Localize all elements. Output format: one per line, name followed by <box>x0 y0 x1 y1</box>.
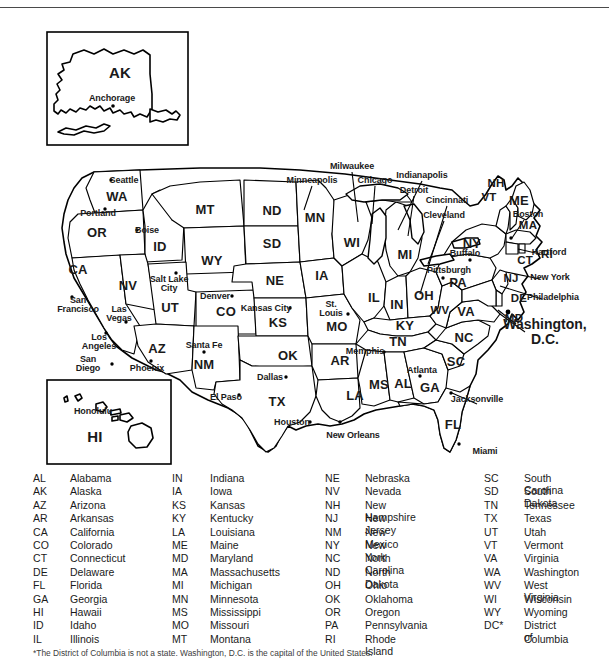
footnote-text: *The District of Columbia is not a state… <box>33 648 373 658</box>
legend-abbr: WV <box>484 579 501 591</box>
legend-state-name: Pennsylvania <box>365 619 427 631</box>
legend-state-name: Connecticut <box>70 552 125 564</box>
legend-abbr: CT <box>33 552 47 564</box>
legend-state-name: Utah <box>524 526 546 538</box>
legend-state-name: Michigan <box>210 579 252 591</box>
legend-abbr: IN <box>172 472 183 484</box>
legend-abbr: DE <box>33 566 48 578</box>
legend-abbr: MT <box>172 633 187 645</box>
legend-state-name: Kentucky <box>210 512 253 524</box>
los-angeles-city-dot <box>104 331 107 334</box>
santa-fe-city-dot <box>202 350 205 353</box>
legend-state-name: Virginia <box>524 552 559 564</box>
legend-abbr: KS <box>172 499 186 511</box>
legend-state-name: Nebraska <box>365 472 410 484</box>
san-francisco-city-dot <box>70 295 73 298</box>
legend-abbr: WI <box>484 593 497 605</box>
legend-abbr: OR <box>325 606 341 618</box>
el-paso-city-dot <box>237 393 240 396</box>
buffalo-city-dot <box>468 258 471 261</box>
legend-abbr: VA <box>484 552 497 564</box>
legend-abbr: FL <box>33 579 45 591</box>
las-vegas-city-dot <box>124 320 127 323</box>
legend-abbr: ID <box>33 619 44 631</box>
legend-abbr: KY <box>172 512 186 524</box>
dallas-city-dot <box>284 375 287 378</box>
kansas-city-city-dot <box>288 306 291 309</box>
legend-state-name: Missouri <box>210 619 249 631</box>
us-map-page: AK Anchorage HI Honolulu WAORCANVIDMTWYU… <box>0 0 609 661</box>
portland-city-dot <box>103 207 106 210</box>
hawaii-molokai <box>110 409 121 415</box>
legend-abbr: NY <box>325 539 340 551</box>
alaska-inset-group <box>47 32 188 145</box>
state-oregon <box>68 210 145 258</box>
legend-abbr: MO <box>172 619 189 631</box>
legend-abbr: CA <box>33 526 48 538</box>
state-south-dakota <box>244 226 300 264</box>
state-abbreviation-legend: ALAlabamaAKAlaskaAZArizonaARArkansasCACa… <box>0 472 609 642</box>
legend-state-name: Hawaii <box>70 606 102 618</box>
houston-city-dot <box>308 420 311 423</box>
state-oklahoma <box>238 336 312 368</box>
miami-city-dot <box>457 442 460 445</box>
alaska-panhandle <box>150 109 180 122</box>
salt-lake-city-city-dot <box>174 271 177 274</box>
hawaii-niihau <box>64 396 68 402</box>
legend-state-name: Montana <box>210 633 251 645</box>
legend-abbr: HI <box>33 606 44 618</box>
legend-state-name: Alaska <box>70 485 102 497</box>
legend-abbr: PA <box>325 619 338 631</box>
legend-abbr: IA <box>172 485 182 497</box>
legend-abbr: MS <box>172 606 188 618</box>
legend-state-name: Massachusetts <box>210 566 280 578</box>
legend-state-name: Maine <box>210 539 239 551</box>
boston-city-dot <box>509 236 512 239</box>
legend-state-name: Oregon <box>365 606 400 618</box>
san-diego-city-dot <box>110 362 113 365</box>
hawaii-inset-box <box>47 380 171 464</box>
legend-abbr: AK <box>33 485 47 497</box>
top-divider <box>0 7 609 8</box>
map-stage: AK Anchorage HI Honolulu WAORCANVIDMTWYU… <box>0 14 609 469</box>
legend-abbr: GA <box>33 593 48 605</box>
denver-city-dot <box>230 294 233 297</box>
state-washington <box>86 170 143 213</box>
jacksonville-city-dot <box>449 391 452 394</box>
legend-state-name: California <box>70 526 114 538</box>
legend-state-name: Iowa <box>210 485 232 497</box>
legend-abbr: ND <box>325 566 340 578</box>
legend-state-name: Nevada <box>365 485 401 497</box>
legend-state-name: Arizona <box>70 499 106 511</box>
st-louis-city-dot <box>346 312 349 315</box>
legend-state-name: Delaware <box>70 566 114 578</box>
legend-abbr: TX <box>484 512 498 524</box>
hawaii-inset-group <box>47 380 171 464</box>
legend-abbr: NJ <box>325 512 338 524</box>
legend-abbr: OH <box>325 579 341 591</box>
atlanta-city-dot <box>418 374 421 377</box>
legend-abbr: MA <box>172 566 188 578</box>
legend-state-name: Idaho <box>70 619 96 631</box>
legend-state-name: Georgia <box>70 593 107 605</box>
legend-abbr: MI <box>172 579 184 591</box>
legend-state-name: Columbia <box>524 633 568 645</box>
legend-abbr: RI <box>325 633 336 645</box>
memphis-city-dot <box>382 350 385 353</box>
legend-abbr: NV <box>325 485 340 497</box>
legend-abbr: VT <box>484 539 498 551</box>
legend-abbr: SC <box>484 472 499 484</box>
legend-abbr: AZ <box>33 499 47 511</box>
legend-state-name: Colorado <box>70 539 113 551</box>
legend-abbr: NE <box>325 472 340 484</box>
hawaii-bigisland <box>128 423 153 448</box>
legend-state-name: Illinois <box>70 633 99 645</box>
legend-abbr: LA <box>172 526 185 538</box>
legend-abbr: DC* <box>484 619 504 631</box>
legend-state-name: Texas <box>524 512 551 524</box>
state-connecticut <box>506 242 518 254</box>
legend-abbr: CO <box>33 539 49 551</box>
legend-abbr: OK <box>325 593 340 605</box>
anchorage-city-dot <box>111 104 115 108</box>
us-map-svg <box>0 14 609 469</box>
